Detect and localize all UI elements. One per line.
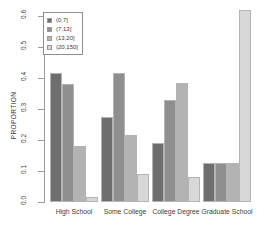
legend: (0,7](7,13](13,20](20,150]: [43, 12, 83, 55]
legend-item-label: (7,13]: [56, 25, 71, 33]
y-axis-tick-label: 0.6: [12, 11, 36, 18]
bar: [113, 73, 125, 202]
bar: [239, 10, 251, 202]
bar: [188, 177, 200, 202]
y-axis-tick-label-text: 0.5: [20, 41, 27, 50]
legend-item-label: (13,20]: [56, 34, 75, 42]
bar: [203, 163, 215, 202]
legend-item-label: (0,7]: [56, 16, 68, 24]
legend-item: (7,13]: [47, 25, 78, 33]
legend-swatch-icon: [47, 45, 52, 50]
y-axis-title-text: PROPORTION: [10, 76, 17, 156]
legend-swatch-icon: [47, 27, 52, 32]
y-axis-tick-label-text: 0.4: [20, 72, 27, 81]
bar: [137, 174, 149, 202]
y-axis-tick-mark: [38, 109, 44, 110]
y-axis-tick-mark: [38, 78, 44, 79]
bar: [125, 135, 137, 202]
legend-item-label: (20,150]: [56, 43, 78, 51]
bar: [227, 163, 239, 202]
bar: [50, 73, 62, 202]
bar: [101, 117, 113, 202]
legend-swatch-icon: [47, 36, 52, 41]
y-axis-tick-label: 0.0: [12, 197, 36, 204]
bar: [164, 100, 176, 202]
bar: [74, 146, 86, 202]
bar: [86, 197, 98, 202]
y-axis-tick-mark: [38, 202, 44, 203]
y-axis-tick-label-text: 0.2: [20, 134, 27, 143]
y-axis-tick-label: 0.1: [12, 166, 36, 173]
bar: [62, 84, 74, 202]
y-axis-tick-label: 0.2: [12, 135, 36, 142]
y-axis-tick-mark: [38, 140, 44, 141]
legend-item: (13,20]: [47, 34, 78, 42]
y-axis-tick-label-text: 0.3: [20, 103, 27, 112]
y-axis-tick-label: 0.3: [12, 104, 36, 111]
legend-swatch-icon: [47, 18, 52, 23]
y-axis-tick-label: 0.5: [12, 42, 36, 49]
bar: [152, 143, 164, 202]
bar: [215, 163, 227, 202]
y-axis-tick-label: 0.4: [12, 73, 36, 80]
bar-chart: PROPORTION 0.00.10.20.30.40.50.6 High Sc…: [0, 0, 263, 235]
legend-item: (0,7]: [47, 16, 78, 24]
y-axis-title: PROPORTION: [6, 76, 20, 156]
x-axis-label-graduate-school: Graduate School: [195, 208, 259, 215]
y-axis-tick-label-text: 0.1: [20, 165, 27, 174]
y-axis-tick-mark: [38, 171, 44, 172]
y-axis-tick-label-text: 0.6: [20, 10, 27, 19]
bar: [176, 83, 188, 202]
y-axis-tick-label-text: 0.0: [20, 196, 27, 205]
legend-item: (20,150]: [47, 43, 78, 51]
